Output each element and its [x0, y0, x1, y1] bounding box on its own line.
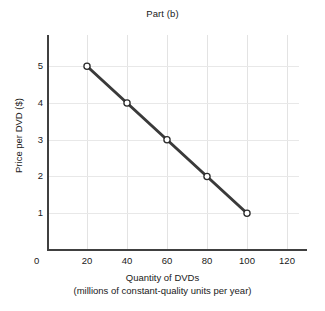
x-axis-title-line-2: (millions of constant-quality units per … — [0, 285, 325, 298]
gridline-vertical — [287, 35, 288, 250]
chart-title: Part (b) — [0, 8, 325, 19]
gridline-vertical — [167, 35, 168, 250]
y-axis-spine — [47, 35, 49, 251]
gridline-horizontal — [47, 213, 299, 214]
x-axis-tick-label: 100 — [232, 255, 262, 266]
y-axis-tick-label: 2 — [21, 171, 43, 181]
gridline-vertical — [87, 35, 88, 250]
y-axis-tick-label: 4 — [21, 98, 43, 108]
x-axis-spine — [47, 249, 307, 251]
gridline-horizontal — [47, 66, 299, 67]
y-axis-title: Price per DVD ($) — [13, 66, 24, 206]
x-axis-title: Quantity of DVDs (millions of constant-q… — [0, 272, 325, 297]
origin-tick-label: 0 — [34, 255, 39, 266]
gridline-horizontal — [47, 103, 299, 104]
x-axis-tick-labels: 20406080100120 — [0, 255, 325, 269]
gridline-vertical — [127, 35, 128, 250]
x-axis-tick-label: 120 — [272, 255, 302, 266]
gridline-vertical — [247, 35, 248, 250]
plot-area — [47, 35, 307, 250]
gridline-vertical — [207, 35, 208, 250]
y-axis-tick-label: 5 — [21, 61, 43, 71]
gridline-horizontal — [47, 140, 299, 141]
y-axis-tick-label: 3 — [21, 135, 43, 145]
x-axis-tick-label: 40 — [112, 255, 142, 266]
x-axis-tick-label: 60 — [152, 255, 182, 266]
x-axis-tick-label: 80 — [192, 255, 222, 266]
gridline-horizontal — [47, 176, 299, 177]
x-axis-title-line-1: Quantity of DVDs — [126, 272, 199, 283]
chart-figure: Part (b) 12345 20406080100120 0 Price pe… — [0, 0, 325, 311]
y-axis-tick-label: 1 — [21, 208, 43, 218]
x-axis-tick-label: 20 — [72, 255, 102, 266]
